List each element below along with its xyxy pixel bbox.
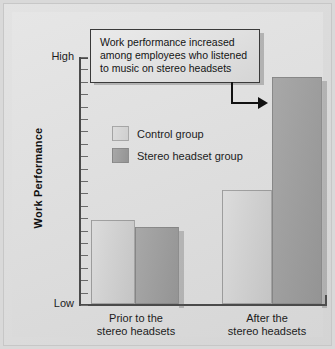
- x-axis-category-label-0: Prior to the stereo headsets: [76, 312, 196, 338]
- y-axis-title: Work Performance: [32, 108, 44, 248]
- y-axis-tick: [81, 206, 88, 207]
- legend-swatch-stereo-headset-group: [112, 148, 129, 163]
- legend-label-stereo-headset-group: Stereo headset group: [137, 150, 243, 162]
- y-axis-tick: [81, 144, 88, 145]
- chart-legend: Control group Stereo headset group: [112, 126, 243, 170]
- y-axis-tick: [81, 169, 88, 170]
- legend-item-control-group: Control group: [112, 126, 243, 141]
- y-axis-tick: [81, 82, 88, 83]
- bar-drop-shadow: [179, 231, 184, 308]
- y-axis-tick: [81, 156, 88, 157]
- legend-item-stereo-headset-group: Stereo headset group: [112, 148, 243, 163]
- y-axis-tick: [81, 69, 88, 70]
- callout-line-3: to music on stereo headsets: [100, 62, 251, 75]
- bar-control-group-1: [222, 190, 272, 304]
- x-axis-category-1-line-1: After the: [207, 312, 327, 325]
- callout-arrow-stem-vertical: [231, 82, 233, 104]
- y-axis-tick: [81, 131, 88, 132]
- callout-line-2: among employees who listened: [100, 49, 251, 62]
- bar-stereo-headset-group-1: [272, 77, 322, 304]
- y-axis-tick: [81, 218, 88, 219]
- y-axis-tick: [81, 243, 88, 244]
- y-axis-tick: [81, 57, 88, 58]
- y-axis-tick: [81, 231, 88, 232]
- bar-body: [272, 77, 322, 304]
- y-axis-tick: [81, 293, 88, 294]
- bar-body: [91, 220, 135, 304]
- x-axis-line: [79, 304, 327, 306]
- x-axis-category-0-line-2: stereo headsets: [76, 325, 196, 338]
- y-axis-tick: [81, 268, 88, 269]
- callout-arrow-stem-horizontal: [231, 102, 260, 104]
- y-axis-tick: [81, 305, 88, 306]
- callout-arrow-head-icon: [258, 97, 268, 109]
- bar-body: [222, 190, 272, 304]
- y-axis-tick: [81, 193, 88, 194]
- bar-control-group-0: [91, 220, 135, 304]
- y-axis-tick: [81, 255, 88, 256]
- plot-area: High Low Work Performance Control group …: [12, 12, 323, 337]
- bar-stereo-headset-group-0: [135, 227, 179, 304]
- x-axis-category-0-line-1: Prior to the: [76, 312, 196, 325]
- y-axis-high-label: High: [24, 50, 74, 62]
- y-axis-ticks: [81, 57, 91, 305]
- y-axis-tick: [81, 119, 88, 120]
- y-axis-tick: [81, 280, 88, 281]
- legend-label-control-group: Control group: [137, 128, 204, 140]
- y-axis-tick: [81, 107, 88, 108]
- callout-box: Work performance increased among employe…: [90, 29, 260, 83]
- x-axis-category-label-1: After the stereo headsets: [207, 312, 327, 338]
- legend-swatch-control-group: [112, 126, 129, 141]
- chart-figure: High Low Work Performance Control group …: [0, 0, 335, 349]
- bar-drop-shadow: [322, 81, 327, 308]
- x-axis-category-1-line-2: stereo headsets: [207, 325, 327, 338]
- y-axis-low-label: Low: [24, 297, 74, 309]
- y-axis-tick: [81, 181, 88, 182]
- y-axis-tick: [81, 94, 88, 95]
- bar-body: [135, 227, 179, 304]
- callout-line-1: Work performance increased: [100, 36, 251, 49]
